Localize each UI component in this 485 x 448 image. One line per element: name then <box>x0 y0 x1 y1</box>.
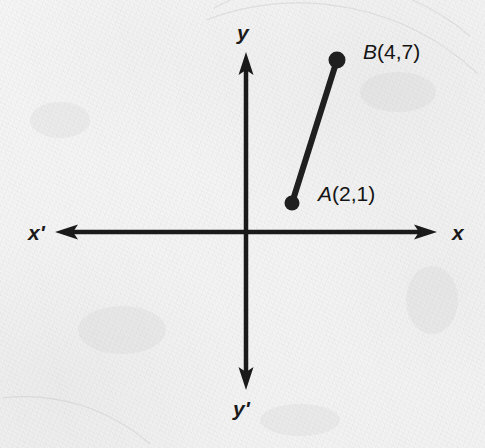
point-b-name: B <box>363 40 377 63</box>
point-b-y: 7 <box>402 40 414 63</box>
coordinate-plane-figure: x) --> x' x y y' A(2,1) B(4,7) <box>0 0 485 448</box>
point-a-coords: (2,1) <box>332 182 375 205</box>
x-negative-axis-label: x' <box>28 222 45 243</box>
point-b-coords: (4,7) <box>377 40 420 63</box>
point-a-marker <box>285 196 300 211</box>
plot-canvas: x) --> <box>0 0 485 448</box>
y-positive-axis-label: y <box>237 22 249 43</box>
point-b-label: B(4,7) <box>363 41 420 62</box>
point-a-label: A(2,1) <box>318 183 375 204</box>
y-axis <box>239 52 254 390</box>
y-negative-axis-label: y' <box>233 398 250 419</box>
point-a-y: 1 <box>357 182 369 205</box>
point-b-marker <box>329 52 346 69</box>
point-a-x: 2 <box>339 182 351 205</box>
point-b-x: 4 <box>384 40 396 63</box>
point-a-name: A <box>318 182 332 205</box>
x-positive-axis-label: x <box>452 222 464 243</box>
